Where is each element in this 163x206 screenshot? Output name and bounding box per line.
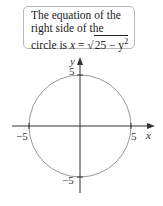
y-tick-label-pos: 5: [69, 65, 75, 77]
y-axis-arrow-icon: [77, 57, 83, 65]
y-tick-label-neg: −5: [62, 174, 74, 186]
x-tick-label-pos: 5: [131, 130, 137, 142]
circle-diagram: y 5 −5 −5 5 x: [0, 0, 163, 206]
x-tick-label-neg: −5: [16, 130, 28, 142]
x-axis-label: x: [145, 129, 151, 141]
